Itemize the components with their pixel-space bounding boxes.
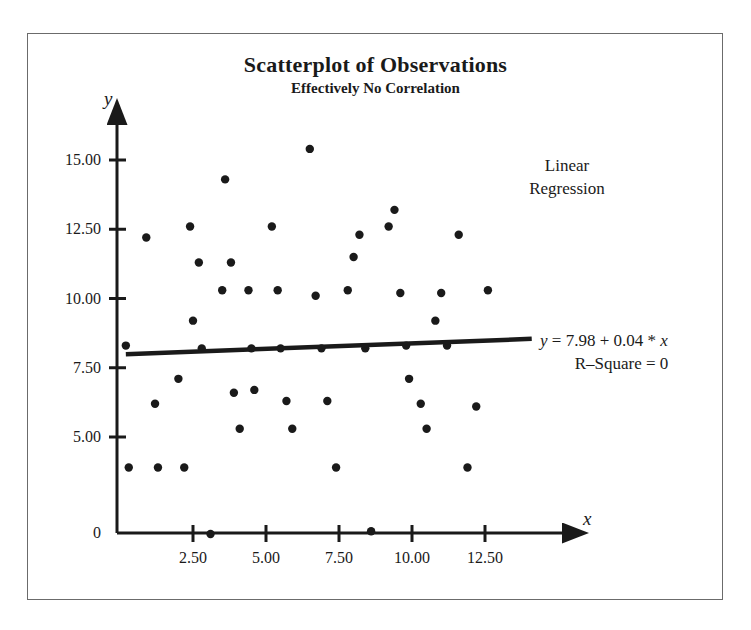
y-tick-label: 10.00 (65, 290, 101, 308)
data-point (151, 400, 159, 408)
data-point (154, 463, 162, 471)
x-tick-label: 5.00 (252, 549, 280, 567)
data-point (244, 286, 252, 294)
data-point (396, 289, 404, 297)
regression-line (126, 339, 532, 354)
x-tick-label: 7.50 (325, 549, 353, 567)
data-point (355, 231, 363, 239)
data-point (236, 424, 244, 432)
data-point (349, 253, 357, 261)
scatter-plot-canvas (0, 0, 751, 630)
x-tick-label: 10.00 (394, 549, 430, 567)
data-point (218, 286, 226, 294)
data-point (332, 463, 340, 471)
data-point (186, 222, 194, 230)
data-point (367, 527, 375, 535)
data-point (122, 341, 130, 349)
data-point (306, 145, 314, 153)
data-point (384, 222, 392, 230)
data-point (174, 375, 182, 383)
data-point (472, 402, 480, 410)
data-point (455, 231, 463, 239)
data-point (230, 388, 238, 396)
data-point (268, 222, 276, 230)
data-point (180, 463, 188, 471)
data-point (125, 463, 133, 471)
data-point (417, 400, 425, 408)
data-point (422, 424, 430, 432)
data-point (344, 286, 352, 294)
data-point (431, 316, 439, 324)
data-point (463, 463, 471, 471)
data-point (142, 233, 150, 241)
data-point (250, 386, 258, 394)
y-tick-label: 5.00 (73, 428, 101, 446)
data-point (282, 397, 290, 405)
regression-line-path (126, 339, 532, 354)
figure-container: Scatterplot of Observations Effectively … (0, 0, 751, 630)
data-point (323, 397, 331, 405)
y-tick-label: 0 (93, 524, 101, 542)
data-point (273, 286, 281, 294)
data-point (195, 258, 203, 266)
y-tick-label: 15.00 (65, 151, 101, 169)
data-point (437, 289, 445, 297)
data-point (206, 530, 214, 538)
data-point (221, 175, 229, 183)
data-point (311, 292, 319, 300)
data-point (189, 316, 197, 324)
data-point (390, 206, 398, 214)
data-point (227, 258, 235, 266)
x-tick-label: 2.50 (179, 549, 207, 567)
x-tick-label: 12.50 (467, 549, 503, 567)
data-point (484, 286, 492, 294)
y-tick-label: 12.50 (65, 220, 101, 238)
data-point (288, 424, 296, 432)
data-point (405, 375, 413, 383)
y-tick-label: 7.50 (73, 359, 101, 377)
